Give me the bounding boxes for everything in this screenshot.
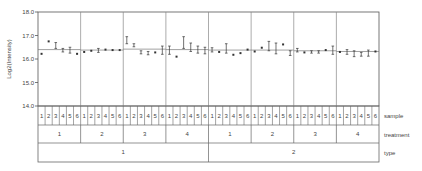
sample-label: 6 <box>161 113 165 119</box>
y-tick-label: 15.0 <box>22 80 34 86</box>
row-label-sample: sample <box>384 113 404 119</box>
sample-label: 3 <box>182 113 186 119</box>
sample-label: 1 <box>296 113 300 119</box>
y-axis: 14.015.016.017.018.0 <box>22 9 38 109</box>
sample-label: 6 <box>246 113 250 119</box>
data-point <box>374 50 376 52</box>
sample-label: 4 <box>189 113 193 119</box>
y-tick-label: 17.0 <box>22 33 34 39</box>
sample-label: 6 <box>203 113 207 119</box>
sample-label: 5 <box>154 113 158 119</box>
row-label-treatment: treatment <box>384 132 410 138</box>
data-point <box>54 43 57 49</box>
treatment-label: 4 <box>356 131 360 137</box>
treatment-label: 2 <box>100 131 104 137</box>
sample-label: 3 <box>97 113 101 119</box>
data-point <box>332 46 335 54</box>
data-point <box>204 47 207 54</box>
data-point <box>289 51 292 56</box>
y-tick-label: 14.0 <box>22 103 34 109</box>
data-point <box>296 48 299 52</box>
chart: 14.015.016.017.018.0 Log2(Intensity) 123… <box>0 0 422 171</box>
sample-label: 2 <box>217 113 221 119</box>
data-point <box>83 51 85 53</box>
y-tick-label: 16.0 <box>22 56 34 62</box>
sample-label: 4 <box>317 113 321 119</box>
sample-label: 2 <box>90 113 94 119</box>
data-point <box>41 53 43 55</box>
y-tick-label: 18.0 <box>22 9 34 15</box>
data-point <box>282 43 284 45</box>
sample-label: 2 <box>132 113 136 119</box>
sample-label: 2 <box>47 113 51 119</box>
data-point <box>126 37 129 44</box>
data-point <box>232 54 234 56</box>
sample-label: 1 <box>168 113 172 119</box>
type-label: 1 <box>122 149 126 155</box>
sample-label: 5 <box>324 113 328 119</box>
data-point <box>275 43 278 54</box>
data-point <box>182 37 185 49</box>
sample-label: 6 <box>331 113 335 119</box>
sample-label: 4 <box>360 113 364 119</box>
data-point <box>218 51 220 53</box>
data-point <box>346 50 349 55</box>
sample-label: 4 <box>61 113 65 119</box>
sample-label: 6 <box>75 113 79 119</box>
treatment-label: 4 <box>186 131 190 137</box>
sample-label: 1 <box>338 113 342 119</box>
sample-label: 1 <box>83 113 87 119</box>
type-label: 2 <box>292 149 296 155</box>
treatment-label: 1 <box>228 131 232 137</box>
data-point <box>97 48 100 52</box>
sample-label: 6 <box>374 113 378 119</box>
data-point <box>303 51 305 53</box>
sample-label: 3 <box>352 113 356 119</box>
data-point <box>247 49 249 51</box>
sample-label: 4 <box>104 113 108 119</box>
sample-label: 1 <box>253 113 257 119</box>
sample-label: 5 <box>111 113 115 119</box>
sample-label: 4 <box>274 113 278 119</box>
data-point <box>69 47 72 53</box>
sample-label: 4 <box>232 113 236 119</box>
sample-label: 2 <box>175 113 179 119</box>
y-axis-label: Log2(Intensity) <box>6 39 12 79</box>
sample-label: 3 <box>267 113 271 119</box>
sample-label: 6 <box>118 113 122 119</box>
x-axis-table: 1234561123456212345631234564123456112345… <box>38 106 379 162</box>
data-point <box>360 52 363 56</box>
treatment-label: 3 <box>313 131 317 137</box>
row-label-type: type <box>384 150 396 156</box>
sample-label: 4 <box>146 113 150 119</box>
sample-label: 5 <box>196 113 200 119</box>
sample-label: 1 <box>40 113 44 119</box>
data-point <box>161 46 164 54</box>
sample-label: 5 <box>281 113 285 119</box>
data-point <box>268 41 271 50</box>
sample-label: 5 <box>367 113 371 119</box>
data-point <box>112 49 114 51</box>
data-point <box>310 51 313 53</box>
data-point <box>225 44 228 53</box>
treatment-label: 3 <box>143 131 147 137</box>
data-point <box>367 50 370 56</box>
data-point <box>239 52 241 54</box>
data-point <box>339 51 341 53</box>
sample-label: 3 <box>310 113 314 119</box>
data-point <box>104 49 106 51</box>
data-point <box>154 51 156 53</box>
data-point <box>119 49 121 51</box>
treatment-label: 1 <box>58 131 62 137</box>
data-point <box>133 44 136 47</box>
data-point <box>48 40 50 42</box>
sample-label: 2 <box>345 113 349 119</box>
sample-label: 5 <box>239 113 243 119</box>
sample-label: 3 <box>139 113 143 119</box>
data-point <box>140 51 143 54</box>
sample-label: 3 <box>54 113 58 119</box>
data-point <box>168 46 171 54</box>
sample-label: 1 <box>125 113 129 119</box>
data-point <box>76 53 78 55</box>
data-point <box>261 47 263 49</box>
